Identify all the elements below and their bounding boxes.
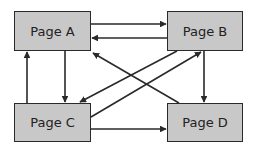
node-label: Page C — [30, 115, 75, 130]
node-page-c: Page C — [14, 103, 91, 142]
node-page-b: Page B — [167, 11, 243, 51]
node-page-a: Page A — [14, 11, 91, 51]
page-link-diagram: Page A Page B Page C Page D — [0, 0, 257, 152]
node-label: Page A — [30, 24, 75, 39]
node-label: Page B — [183, 24, 228, 39]
node-page-d: Page D — [167, 103, 243, 142]
edge-d-to-a — [93, 53, 179, 103]
node-label: Page D — [182, 115, 228, 130]
